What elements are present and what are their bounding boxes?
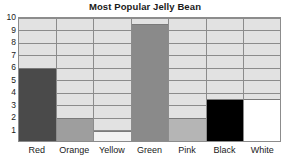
bar-fill[interactable]: [244, 99, 281, 141]
plot-area: [18, 17, 281, 142]
bar-column[interactable]: [169, 18, 207, 141]
x-tick-label: Green: [131, 144, 169, 156]
y-tick-label: 8: [0, 38, 16, 46]
bar-column[interactable]: [94, 18, 132, 141]
x-tick-label: Orange: [56, 144, 94, 156]
y-tick-label: 6: [0, 63, 16, 71]
bar-fill[interactable]: [207, 99, 244, 141]
bar-column[interactable]: [244, 18, 281, 141]
y-tick-label: 3: [0, 101, 16, 109]
y-tick-label: 1: [0, 126, 16, 134]
bars-layer: [19, 18, 280, 141]
bar-fill[interactable]: [57, 118, 94, 141]
chart-title: Most Popular Jelly Bean: [0, 1, 290, 12]
x-axis: RedOrangeYellowGreenPinkBlackWhite: [18, 144, 281, 162]
x-tick-label: White: [243, 144, 281, 156]
bar-fill[interactable]: [94, 131, 131, 142]
y-tick-label: 5: [0, 76, 16, 84]
bar-column[interactable]: [19, 18, 57, 141]
jelly-bean-bar-chart: Most Popular Jelly Bean 12345678910 RedO…: [0, 0, 290, 165]
y-tick-label: 4: [0, 88, 16, 96]
x-tick-label: Red: [18, 144, 56, 156]
x-tick-label: Yellow: [93, 144, 131, 156]
bar-column[interactable]: [57, 18, 95, 141]
bar-fill[interactable]: [132, 24, 169, 141]
y-axis: 12345678910: [0, 17, 16, 142]
bar-column[interactable]: [207, 18, 245, 141]
y-tick-label: 9: [0, 26, 16, 34]
y-tick-label: 10: [0, 13, 16, 21]
y-tick-label: 7: [0, 51, 16, 59]
bar-fill[interactable]: [169, 118, 206, 141]
bar-column[interactable]: [132, 18, 170, 141]
bar-fill[interactable]: [19, 68, 56, 141]
x-tick-label: Pink: [168, 144, 206, 156]
y-tick-label: 2: [0, 113, 16, 121]
x-tick-label: Black: [206, 144, 244, 156]
